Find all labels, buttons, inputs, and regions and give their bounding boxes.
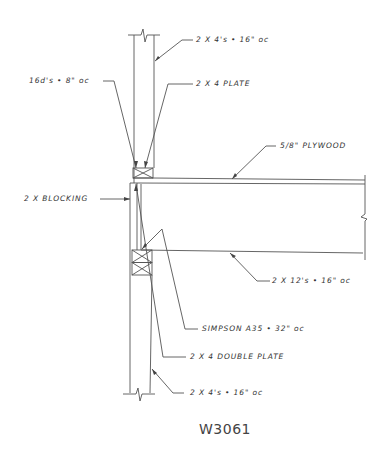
floor-joist: [141, 175, 367, 260]
leader-joists: [230, 253, 270, 281]
leader-nails: [103, 81, 136, 168]
double-plate: [132, 250, 152, 275]
label-nails: 16d's • 8" oc: [29, 77, 89, 85]
wall-stud: [130, 35, 154, 393]
leader-plate: [145, 84, 193, 168]
leader-double-plate: [136, 184, 186, 357]
label-connector: SIMPSON A35 • 32" oc: [202, 325, 305, 333]
rim-blocking: [130, 183, 141, 250]
leader-studs-bottom: [152, 369, 184, 393]
upper-plate: [133, 168, 153, 178]
leader-plywood: [232, 146, 276, 179]
arrowhead: [155, 56, 160, 61]
label-blocking: 2 X BLOCKING: [24, 195, 88, 203]
leader-studs-top: [155, 40, 193, 61]
label-joists: 2 X 12's • 16" oc: [272, 277, 351, 285]
top-break-line: [128, 29, 160, 42]
arrowhead: [124, 197, 130, 201]
arrowhead: [232, 173, 237, 179]
arrowhead: [230, 253, 236, 258]
label-plywood: 5/8" PLYWOOD: [280, 142, 346, 150]
arrowhead: [144, 161, 148, 168]
label-studs-top: 2 X 4's • 16" oc: [196, 36, 269, 44]
label-plate: 2 X 4 PLATE: [196, 80, 250, 88]
arrowhead: [134, 161, 138, 168]
plywood-sheathing: [133, 178, 365, 184]
drawing-id: W3061: [199, 422, 251, 436]
label-double-plate: 2 X 4 DOUBLE PLATE: [190, 353, 284, 361]
label-studs-bottom: 2 X 4's • 16" oc: [190, 389, 263, 397]
